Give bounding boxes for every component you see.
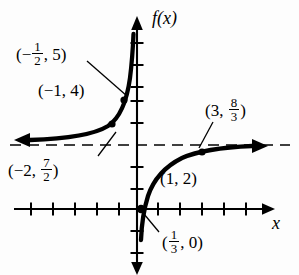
point-label-neg2-7over2: (−2, 72) <box>8 156 58 183</box>
fraction-seven-halves: 72 <box>41 156 51 183</box>
fraction-numerator: 1 <box>32 40 42 53</box>
label-tail: , 0) <box>180 233 203 252</box>
fraction-eight-thirds: 83 <box>229 96 239 123</box>
point-label-neg-half-5: (−12, 5) <box>16 40 66 67</box>
fraction-numerator: 1 <box>169 228 179 241</box>
y-axis-arrowhead-down <box>131 262 143 275</box>
fraction-numerator: 7 <box>41 156 51 169</box>
fraction-denominator: 3 <box>169 241 179 255</box>
leader-3-8over3 <box>199 122 213 148</box>
point-label-neg1-4: (−1, 4) <box>38 82 84 99</box>
y-axis-arrowhead-up <box>131 16 143 30</box>
fraction-numerator: 8 <box>229 96 239 109</box>
leader-neg2-7over2 <box>98 132 116 156</box>
fraction-denominator: 2 <box>32 53 42 67</box>
paren-open: ( <box>162 233 168 252</box>
paren-close: ) <box>240 101 246 120</box>
curve-right-arrowhead <box>252 139 268 153</box>
paren-close: ) <box>53 161 59 180</box>
x-axis-label: x <box>272 213 280 234</box>
dot-neg2-7over2 <box>108 120 115 127</box>
dot-third-0 <box>137 205 145 213</box>
leader-third-0 <box>144 214 159 232</box>
point-label-1-2: (1, 2) <box>160 170 197 187</box>
minus-sign: − <box>22 45 32 64</box>
label-head: (−2, <box>8 161 40 180</box>
label-tail: , 5) <box>44 45 67 64</box>
y-axis-label: f(x) <box>152 8 177 29</box>
graph-figure: (−12, 5) (−1, 4) (−2, 72) (3, 83) (1, 2)… <box>0 0 299 275</box>
dot-3-8over3 <box>198 148 205 155</box>
point-label-third-0: (13, 0) <box>162 228 203 255</box>
point-label-3-8over3: (3, 83) <box>205 96 246 123</box>
leader-lines <box>87 61 213 232</box>
label-head: (3, <box>205 101 228 120</box>
fraction-denominator: 3 <box>229 109 239 123</box>
fraction-denominator: 2 <box>41 169 51 183</box>
fraction-one-third: 13 <box>169 228 179 255</box>
dot-neg1-4 <box>120 96 127 103</box>
leader-neg-half-5 <box>87 61 127 96</box>
fraction-one-half: 12 <box>32 40 42 67</box>
